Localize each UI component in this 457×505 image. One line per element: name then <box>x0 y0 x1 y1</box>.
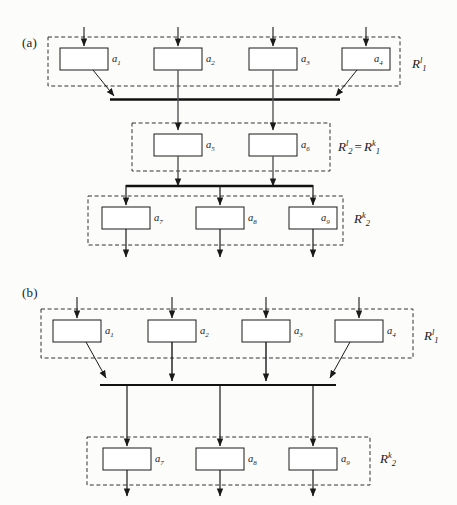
unit-label-b2: a2 <box>200 325 209 339</box>
unit-label-a7: a7 <box>154 212 163 226</box>
unit-label-a4: a4 <box>374 53 383 67</box>
unit-label-b4: a4 <box>387 325 396 339</box>
region-label-a-r2l-sub: 2 <box>348 146 352 156</box>
connector-b4-to-bus <box>330 342 350 378</box>
unit-box-b4[interactable] <box>335 320 383 342</box>
region-label-b-r1l: Rl1 <box>424 327 439 345</box>
unit-box-b8[interactable] <box>196 448 244 470</box>
region-label-a-r1l-base: R <box>412 56 420 71</box>
unit-label-a4-sub: 4 <box>379 59 383 67</box>
unit-label-b7-sub: 7 <box>160 459 164 467</box>
region-label-a-r2k-sub: 2 <box>366 218 370 228</box>
unit-box-a8[interactable] <box>196 207 244 229</box>
unit-box-b1[interactable] <box>53 320 101 342</box>
unit-label-b1: a1 <box>105 325 114 339</box>
unit-label-a3: a3 <box>301 53 310 67</box>
unit-box-a7[interactable] <box>102 207 150 229</box>
figure-root: (a) (b) a1 a2 a3 a4 a5 a6 a7 a8 a9 Rl1 R… <box>0 0 457 505</box>
unit-label-b8: a8 <box>248 453 257 467</box>
unit-label-a8: a8 <box>248 212 257 226</box>
unit-label-b8-sub: 8 <box>253 459 257 467</box>
unit-label-a3-sub: 3 <box>306 59 310 67</box>
unit-label-a8-sub: 8 <box>253 218 257 226</box>
panel-tag-b: (b) <box>22 285 38 301</box>
region-label-a-r2k: Rk2 <box>354 210 370 228</box>
region-label-b-r2k: Rk2 <box>380 450 396 468</box>
connector-b1-to-bus <box>86 342 106 378</box>
unit-label-b9: a9 <box>341 453 350 467</box>
connector-a1-to-bus1 <box>93 70 114 96</box>
unit-label-a9-sub: 9 <box>326 218 330 226</box>
unit-box-a3[interactable] <box>249 48 297 70</box>
region-label-a-r1k-base: R <box>364 139 372 154</box>
region-label-a-equals: = <box>353 139 364 154</box>
region-label-a-r2l-base: R <box>338 139 346 154</box>
diagram-canvas <box>0 0 457 505</box>
region-label-b-r1l-sub: 1 <box>434 335 438 345</box>
unit-label-b2-sub: 2 <box>205 331 209 339</box>
unit-label-a1: a1 <box>112 53 121 67</box>
unit-box-a5[interactable] <box>154 134 202 156</box>
unit-label-b4-sub: 4 <box>392 331 396 339</box>
unit-box-b3[interactable] <box>242 320 290 342</box>
unit-label-b3: a3 <box>294 325 303 339</box>
region-label-a-r1l: Rl1 <box>412 55 427 73</box>
unit-label-a7-sub: 7 <box>159 218 163 226</box>
unit-box-b9[interactable] <box>289 448 337 470</box>
unit-box-a1[interactable] <box>60 48 108 70</box>
unit-label-a6: a6 <box>301 139 310 153</box>
unit-label-a1-sub: 1 <box>117 59 121 67</box>
unit-label-a5: a5 <box>206 139 215 153</box>
unit-label-a5-sub: 5 <box>211 145 215 153</box>
unit-label-b1-sub: 1 <box>110 331 114 339</box>
unit-label-b3-sub: 3 <box>299 331 303 339</box>
unit-box-b7[interactable] <box>103 448 151 470</box>
region-label-b-r2k-base: R <box>380 451 388 466</box>
unit-label-a2: a2 <box>206 53 215 67</box>
unit-label-a2-sub: 2 <box>211 59 215 67</box>
region-label-a-r1l-sub: 1 <box>422 63 426 73</box>
region-label-b-r1l-base: R <box>424 328 432 343</box>
unit-box-a6[interactable] <box>249 134 297 156</box>
unit-label-b7: a7 <box>155 453 164 467</box>
connector-a4-to-bus1 <box>336 70 357 96</box>
unit-label-b9-sub: 9 <box>346 459 350 467</box>
unit-box-a2[interactable] <box>154 48 202 70</box>
region-label-a-r1k-sub: 1 <box>376 146 380 156</box>
unit-label-a9: a9 <box>321 212 330 226</box>
region-label-a-r2l-r1k: Rl2=Rk1 <box>338 138 380 156</box>
panel-tag-a: (a) <box>22 35 37 51</box>
region-label-b-r2k-sub: 2 <box>392 458 396 468</box>
region-label-a-r2k-base: R <box>354 211 362 226</box>
unit-box-b2[interactable] <box>148 320 196 342</box>
unit-label-a6-sub: 6 <box>306 145 310 153</box>
